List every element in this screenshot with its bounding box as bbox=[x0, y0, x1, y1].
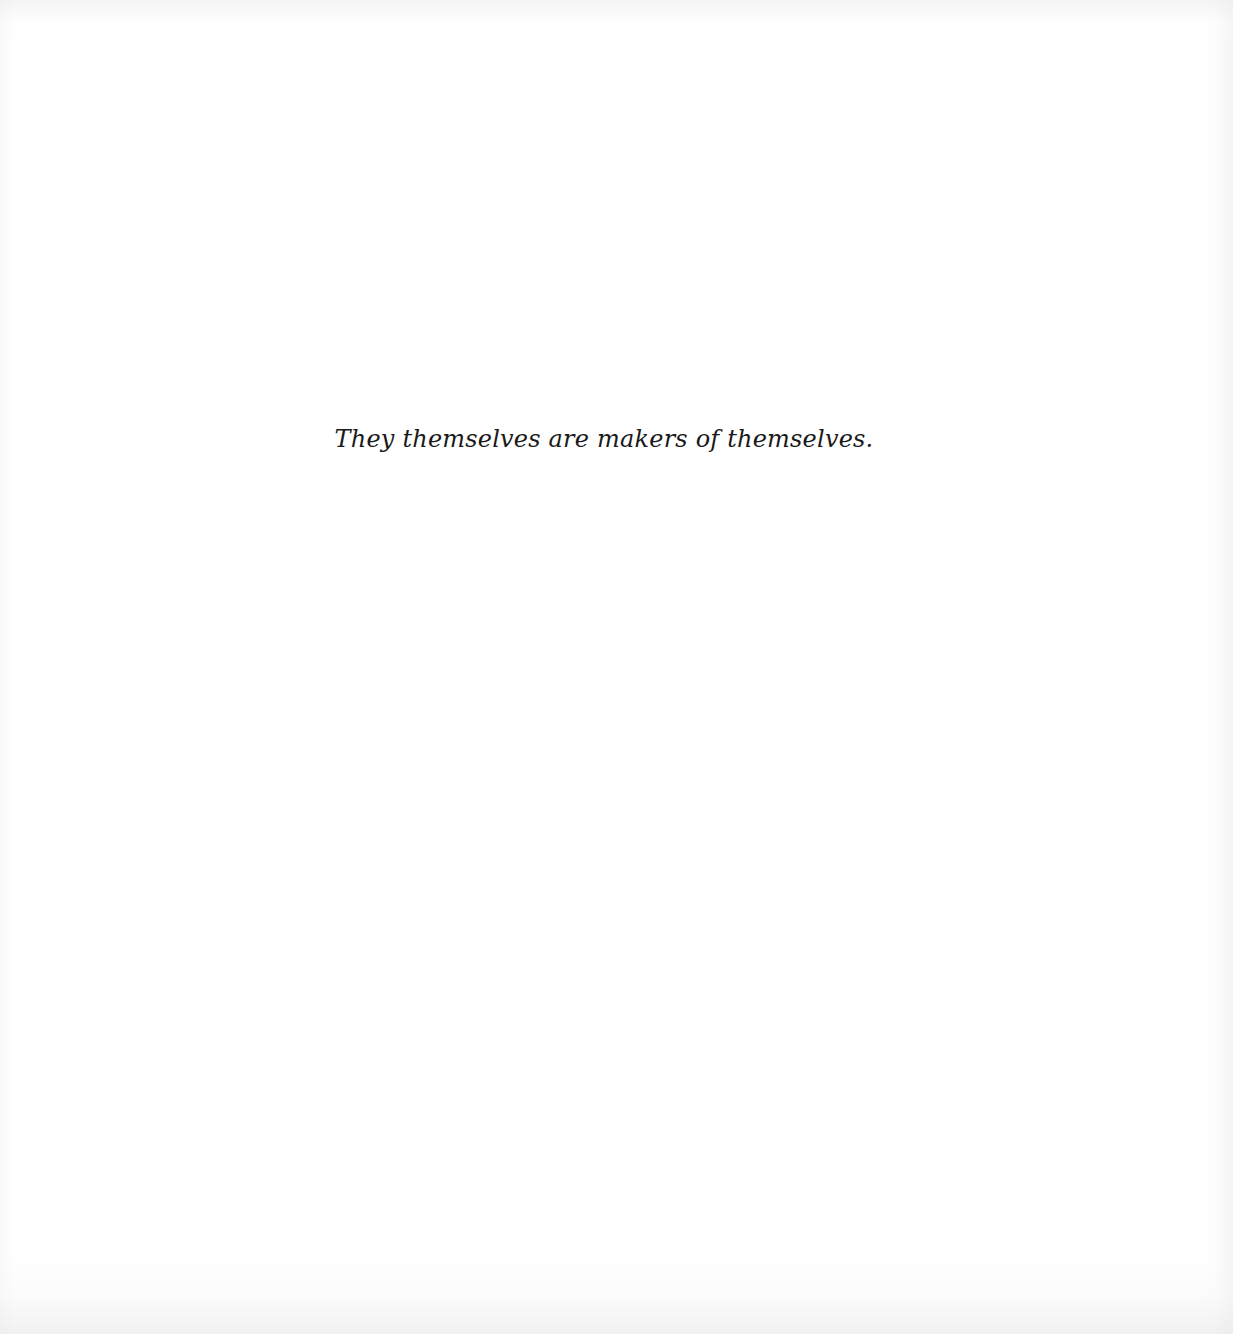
epigraph-text: They themselves are makers of themselves… bbox=[0, 419, 1208, 459]
book-page: They themselves are makers of themselves… bbox=[0, 0, 1233, 1334]
